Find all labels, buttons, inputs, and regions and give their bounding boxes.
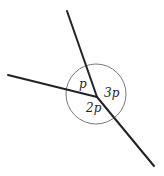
lower-right-ray: [97, 97, 154, 166]
angle-p-label: p: [79, 77, 87, 91]
angle-3p-label: 3p: [104, 86, 120, 100]
angle-2p-label: 2p: [85, 101, 102, 115]
angle-diagram: p 3p 2p: [0, 0, 164, 176]
